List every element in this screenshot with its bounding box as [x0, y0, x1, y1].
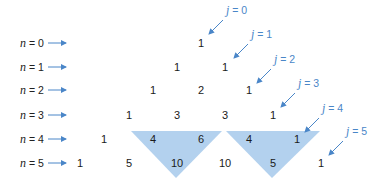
pascal-value-n5-j1: 5 — [126, 157, 132, 169]
pascal-value-n3-j3: 1 — [270, 109, 276, 121]
row-label-n0: n = 0 — [20, 36, 44, 51]
diagonal-label-j3: j = 3 — [298, 76, 319, 91]
pascal-value-n4-j2: 6 — [198, 133, 204, 145]
diagonal-label-j5: j = 5 — [346, 124, 367, 139]
pascal-triangle-diagram — [0, 0, 382, 186]
row-label-n2: n = 2 — [20, 83, 44, 98]
triangle-4-6-10-highlight — [131, 131, 222, 178]
highlight-triangles — [131, 131, 320, 178]
diagonal-arrow-icon — [234, 44, 248, 58]
pascal-value-n1-j1: 1 — [222, 61, 228, 73]
pascal-value-n3-j1: 3 — [174, 109, 180, 121]
pascal-value-n5-j4: 5 — [270, 157, 276, 169]
pascal-value-n2-j2: 1 — [246, 84, 252, 96]
row-label-n3: n = 3 — [20, 108, 44, 123]
pascal-value-n4-j1: 4 — [150, 133, 156, 145]
row-label-n5: n = 5 — [20, 156, 44, 171]
pascal-value-n3-j0: 1 — [126, 109, 132, 121]
diagonal-label-j2: j = 2 — [274, 52, 295, 67]
pascal-value-n2-j0: 1 — [150, 84, 156, 96]
triangle-4-1-5-highlight — [226, 131, 320, 178]
diagonal-arrow-icon — [257, 69, 271, 83]
pascal-value-n4-j4: 1 — [294, 133, 300, 145]
pascal-value-n5-j0: 1 — [77, 157, 83, 169]
row-label-n1: n = 1 — [20, 60, 44, 75]
pascal-value-n1-j0: 1 — [174, 61, 180, 73]
diagonal-arrow-icon — [329, 141, 343, 155]
diagonal-label-j1: j = 1 — [251, 27, 272, 42]
diagonal-arrow-icon — [209, 20, 223, 34]
pascal-value-n5-j3: 10 — [219, 157, 231, 169]
pascal-value-n3-j2: 3 — [222, 109, 228, 121]
diagonal-label-j0: j = 0 — [226, 3, 247, 18]
diagonal-arrow-icon — [281, 93, 295, 107]
pascal-value-n4-j3: 4 — [246, 133, 252, 145]
pascal-value-n5-j2: 10 — [171, 157, 183, 169]
diagonal-label-j4: j = 4 — [322, 101, 343, 116]
pascal-value-n0-j0: 1 — [198, 37, 204, 49]
pascal-value-n2-j1: 2 — [198, 84, 204, 96]
pascal-value-n4-j0: 1 — [101, 133, 107, 145]
row-label-n4: n = 4 — [20, 132, 44, 147]
pascal-value-n5-j5: 1 — [318, 157, 324, 169]
diagonal-arrow-icon — [305, 118, 319, 132]
